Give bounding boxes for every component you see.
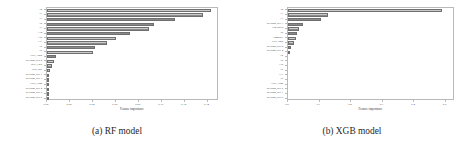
- bar-fill: [47, 83, 49, 86]
- y-tick-label: T13: [279, 73, 283, 76]
- bar-fill: [47, 41, 107, 44]
- x-axis-title-rf: Feature importance: [46, 107, 218, 111]
- bar-fill: [47, 27, 149, 30]
- bar-fill: [47, 23, 154, 26]
- x-axis-title-xgb: Feature importance: [287, 107, 454, 111]
- y-tick-label: T7: [39, 26, 42, 29]
- plot-area-xgb: [287, 7, 454, 100]
- bar-fill: [47, 13, 203, 16]
- bar-fill: [47, 46, 95, 49]
- y-tick-label: T5: [39, 49, 42, 52]
- bar-fill: [47, 74, 49, 77]
- y-tick-label: T10: [279, 63, 283, 66]
- y-tick-label: Heat_Incl: [32, 68, 42, 71]
- figure-container: T4T1T3T9T7T14T12T13T8T5CPU_LoadRevision_…: [0, 0, 469, 152]
- y-tick-label: T8: [280, 59, 283, 62]
- bar-fill: [47, 9, 211, 12]
- caption-xgb: (b) XGB model: [235, 126, 469, 136]
- x-tick-label: 0.02: [66, 102, 71, 106]
- y-tick-label: GDP_High: [271, 82, 283, 85]
- y-tick-label: T9: [39, 22, 42, 25]
- y-tick-label: Revision_Rev 5: [26, 96, 42, 99]
- bar-fill: [47, 32, 130, 35]
- x-tick-label: 0.06: [112, 102, 117, 106]
- y-tick-label: Fan Speed: [272, 26, 283, 29]
- y-tick-label: T8: [39, 45, 42, 48]
- y-tick-label: BNF_Low: [31, 63, 42, 66]
- bar-series-xgb: [288, 8, 453, 99]
- caption-rf: (a) RF model: [0, 126, 234, 136]
- bar-fill: [288, 23, 303, 26]
- bar-fill: [288, 27, 299, 30]
- bar-fill: [288, 13, 328, 16]
- y-tick-label: Revision_Rev 4: [267, 49, 283, 52]
- bar-fill: [47, 64, 52, 67]
- bar-fill: [288, 41, 294, 44]
- y-tick-label: T12: [38, 36, 42, 39]
- x-tick-label: 0.2: [348, 102, 352, 106]
- bar-fill: [47, 37, 116, 40]
- bar-fill: [288, 37, 296, 40]
- y-tick-label: Revision_Rev 1: [26, 73, 42, 76]
- y-tick-label: Revision_Rev 5: [267, 87, 283, 90]
- bar-fill: [288, 32, 297, 35]
- y-tick-label: Revision_Rev 3: [267, 22, 283, 25]
- y-tick-label: CPU_Load: [30, 54, 42, 57]
- y-tick-label: Revision_Rev 2: [267, 45, 283, 48]
- bar-fill: [288, 51, 290, 54]
- plot-area-rf: [46, 7, 218, 100]
- x-tick-label: 0.12: [181, 102, 186, 106]
- x-tick-label: 0.00: [43, 102, 48, 106]
- y-tick-label: Revision_Rev 6: [267, 96, 283, 99]
- bar-fill: [47, 18, 175, 21]
- panel-rf-model: T4T1T3T9T7T14T12T13T8T5CPU_LoadRevision_…: [0, 0, 234, 152]
- bar-fill: [288, 9, 442, 12]
- bar-fill: [47, 51, 93, 54]
- y-tick-label: T4: [280, 8, 283, 11]
- bar-fill: [288, 18, 321, 21]
- bar-fill: [47, 55, 56, 58]
- y-tick-label: Humidity: [273, 36, 283, 39]
- y-axis-labels-xgb: T4T1T3Revision_Rev 3Fan SpeedT9HumidityC…: [235, 0, 285, 93]
- x-tick-label: 0.5: [443, 102, 447, 106]
- y-tick-label: T1: [39, 12, 42, 15]
- y-tick-label: Revision_Rev 2: [26, 59, 42, 62]
- y-tick-label: Revision_Rev 4: [26, 87, 42, 90]
- x-tick-label: 0.3: [380, 102, 384, 106]
- y-tick-label: T2: [280, 54, 283, 57]
- bar-fill: [47, 92, 49, 95]
- x-tick-label: 0.04: [89, 102, 94, 106]
- bar-series-rf: [47, 8, 217, 99]
- y-tick-label: T5: [280, 68, 283, 71]
- y-tick-label: T14: [38, 31, 42, 34]
- bar-fill: [47, 69, 50, 72]
- y-tick-label: CPU Load: [272, 40, 283, 43]
- y-axis-labels-rf: T4T1T3T9T7T14T12T13T8T5CPU_LoadRevision_…: [0, 0, 44, 93]
- y-tick-label: T13: [38, 40, 42, 43]
- x-tick-label: 0.4: [411, 102, 415, 106]
- panel-xgb-model: T4T1T3Revision_Rev 3Fan SpeedT9HumidityC…: [235, 0, 469, 152]
- y-tick-label: T4: [39, 8, 42, 11]
- y-tick-label: Revision_Rev 1: [267, 91, 283, 94]
- bar-fill: [47, 60, 54, 63]
- y-tick-label: Revision_Rev 6: [26, 91, 42, 94]
- y-tick-label: T1: [280, 12, 283, 15]
- bar-fill: [288, 46, 291, 49]
- y-tick-label: T3: [39, 17, 42, 20]
- y-tick-label: T3: [280, 17, 283, 20]
- y-tick-label: T9: [280, 31, 283, 34]
- x-tick-label: 0.14: [204, 102, 209, 106]
- bar-fill: [47, 88, 49, 91]
- bar-fill: [47, 78, 49, 81]
- x-tick-label: 0.10: [158, 102, 163, 106]
- y-tick-label: Revision_Rev 3: [26, 77, 42, 80]
- x-tick-label: 0.1: [317, 102, 321, 106]
- y-tick-label: T6: [280, 77, 283, 80]
- x-tick-label: 0.0: [285, 102, 289, 106]
- x-tick-label: 0.08: [135, 102, 140, 106]
- y-tick-label: GDP_High: [30, 82, 42, 85]
